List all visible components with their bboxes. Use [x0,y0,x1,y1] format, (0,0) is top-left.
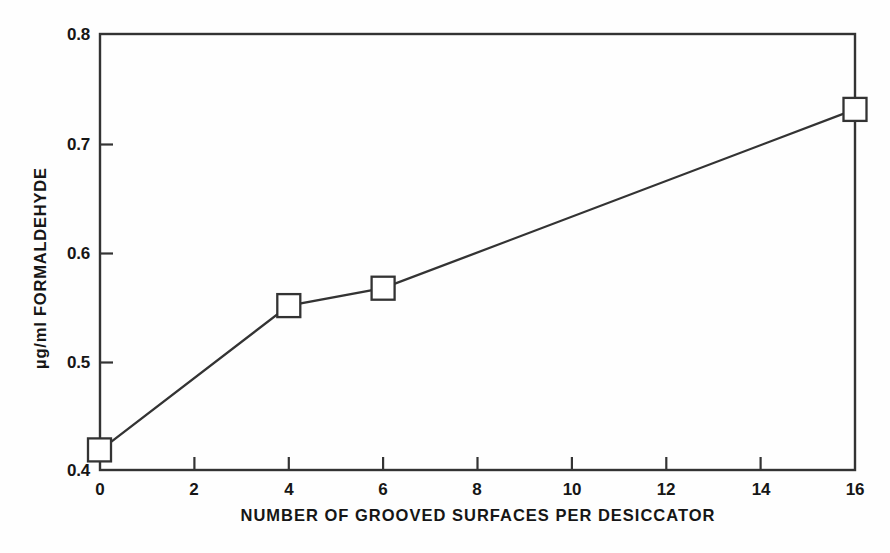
y-axis-title: µg/ml FORMALDEHYDE [32,167,49,369]
data-point-16 [844,98,867,121]
x-tick-label-8: 8 [472,481,481,498]
data-point-0 [88,438,111,461]
data-markers [88,98,867,462]
y-tick-label-0.7: 0.7 [44,136,90,153]
data-point-4 [277,294,300,317]
y-tick-label-0.4: 0.4 [44,462,90,479]
x-tick-label-10: 10 [563,481,582,498]
x-tick-label-2: 2 [189,481,198,498]
data-point-6 [372,277,395,300]
x-tick-label-4: 4 [284,481,293,498]
x-tick-label-6: 6 [378,481,387,498]
x-tick-label-12: 12 [657,481,676,498]
y-tick-label-0.8: 0.8 [44,26,90,43]
y-tick-label-0.5: 0.5 [44,354,90,371]
x-axis-ticks [194,457,760,470]
x-tick-label-14: 14 [752,481,771,498]
data-line-formaldehyde [100,109,855,450]
y-tick-label-0.6: 0.6 [44,245,90,262]
plot-area-svg [0,0,890,553]
x-axis-title: NUMBER OF GROOVED SURFACES PER DESICCATO… [241,507,716,524]
x-tick-label-16: 16 [846,481,865,498]
y-axis-ticks [100,145,113,363]
x-tick-label-0: 0 [95,481,104,498]
figure-canvas: 0.8 0.7 0.6 0.5 0.4 0 2 4 6 8 10 12 14 1… [0,0,890,553]
